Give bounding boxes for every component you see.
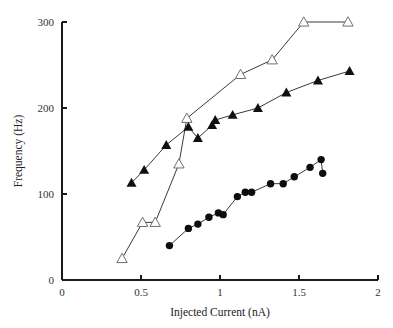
- open-triangles-marker-4: [182, 113, 192, 122]
- open-triangles-marker-2: [150, 217, 160, 226]
- series-open-triangles: [117, 17, 353, 263]
- open-triangles-marker-0: [117, 253, 127, 262]
- x-tick-label-2: 2: [375, 286, 381, 298]
- series-filled-triangles: [127, 66, 355, 187]
- filled-circles-marker-6: [234, 193, 241, 200]
- frequency-vs-current-plot: 010020030000.511.52 Injected Current (nA…: [0, 0, 393, 328]
- filled-triangles-marker-2: [161, 140, 171, 149]
- data-series: [117, 17, 355, 263]
- y-tick-label-0: 0: [49, 274, 55, 286]
- open-triangles-marker-8: [343, 17, 353, 26]
- open-triangles-marker-3: [174, 159, 184, 168]
- x-axis-title: Injected Current (nA): [170, 306, 270, 319]
- filled-circles-marker-1: [185, 225, 192, 232]
- y-tick-label-100: 100: [38, 188, 55, 200]
- filled-circles-marker-13: [317, 156, 324, 163]
- filled-circles-marker-7: [242, 189, 249, 196]
- filled-circles-marker-3: [205, 214, 212, 221]
- y-axis-title: Frequency (Hz): [12, 115, 25, 188]
- chart-figure: 010020030000.511.52 Injected Current (nA…: [0, 0, 393, 328]
- filled-triangles-line: [132, 71, 350, 183]
- y-tick-label-300: 300: [38, 16, 55, 28]
- filled-circles-marker-5: [219, 211, 226, 218]
- filled-triangles-marker-8: [253, 103, 263, 112]
- filled-triangles-marker-11: [345, 66, 355, 75]
- open-triangles-marker-1: [137, 217, 147, 226]
- filled-circles-marker-9: [267, 180, 274, 187]
- series-filled-circles: [166, 156, 327, 249]
- open-triangles-marker-5: [235, 69, 245, 78]
- filled-circles-marker-10: [280, 180, 287, 187]
- y-tick-label-200: 200: [38, 102, 55, 114]
- x-tick-label-0: 0: [59, 286, 65, 298]
- filled-circles-marker-2: [194, 220, 201, 227]
- x-tick-label-1: 1: [217, 286, 223, 298]
- filled-triangles-marker-9: [281, 88, 291, 97]
- filled-circles-marker-8: [248, 189, 255, 196]
- axes: 010020030000.511.52: [38, 16, 381, 298]
- filled-triangles-marker-3: [183, 122, 193, 131]
- filled-circles-marker-12: [306, 164, 313, 171]
- filled-circles-marker-14: [319, 170, 326, 177]
- x-tick-label-0.5: 0.5: [134, 286, 148, 298]
- x-tick-label-1.5: 1.5: [292, 286, 306, 298]
- filled-circles-marker-11: [291, 173, 298, 180]
- open-triangles-marker-7: [299, 17, 309, 26]
- filled-circles-line: [169, 160, 322, 246]
- filled-circles-marker-0: [166, 242, 173, 249]
